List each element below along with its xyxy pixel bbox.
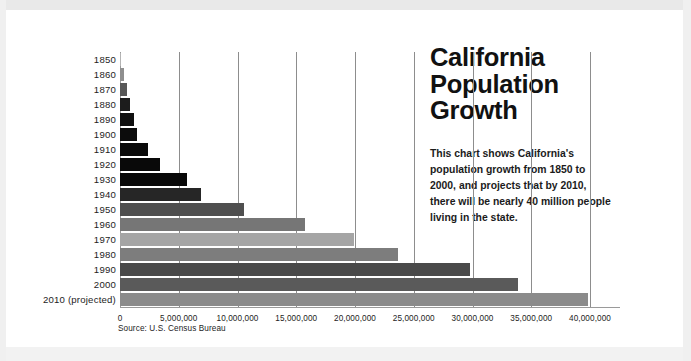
- bar-row: [120, 232, 590, 247]
- bar-1960: [120, 218, 305, 230]
- bar-1990: [120, 263, 470, 275]
- poster-top-edge: [0, 0, 691, 10]
- bar-1980: [120, 248, 398, 260]
- bar-row: [120, 112, 590, 127]
- bar-row: [120, 97, 590, 112]
- bar-row: [120, 67, 590, 82]
- bar-row: [120, 172, 590, 187]
- y-axis-label-1910: 1910: [4, 144, 116, 155]
- bar-row: [120, 292, 590, 307]
- x-axis-rule: [120, 307, 620, 308]
- bar-1920: [120, 158, 160, 170]
- bar-row: [120, 52, 590, 67]
- bar-1950: [120, 203, 244, 215]
- bar-1910: [120, 143, 148, 155]
- bar-row: [120, 142, 590, 157]
- bar-row: [120, 127, 590, 142]
- bar-chart-plot-area: 1850186018701880189019001910192019301940…: [120, 52, 590, 307]
- bar-row: [120, 262, 590, 277]
- y-axis-label-1860: 1860: [4, 69, 116, 80]
- bar-1850: [120, 53, 121, 65]
- bar-row: [120, 247, 590, 262]
- y-axis-label-1970: 1970: [4, 234, 116, 245]
- y-axis-label-1980: 1980: [4, 249, 116, 260]
- y-axis-label-1890: 1890: [4, 114, 116, 125]
- bar-1870: [120, 83, 127, 95]
- bar-1880: [120, 98, 130, 110]
- y-axis-label-1940: 1940: [4, 189, 116, 200]
- y-axis-label-1960: 1960: [4, 219, 116, 230]
- y-axis-label-1920: 1920: [4, 159, 116, 170]
- y-axis-label-1880: 1880: [4, 99, 116, 110]
- y-axis-label-1990: 1990: [4, 264, 116, 275]
- source-note: Source: U.S. Census Bureau: [118, 324, 226, 333]
- bar-1890: [120, 113, 134, 125]
- bar-row: [120, 217, 590, 232]
- gridline-40000000: [590, 52, 591, 307]
- infographic-poster: California Population Growth This chart …: [0, 0, 691, 361]
- poster-bottom-edge: [0, 347, 691, 361]
- y-axis-label-1950: 1950: [4, 204, 116, 215]
- bar-row: [120, 187, 590, 202]
- bar-1970: [120, 233, 354, 245]
- bar-1900: [120, 128, 137, 140]
- y-axis-label-1900: 1900: [4, 129, 116, 140]
- bar-row: [120, 202, 590, 217]
- x-axis-label-40000000: 40,000,000: [550, 314, 630, 323]
- bar-row: [120, 82, 590, 97]
- y-axis-label-2010-projected-: 2010 (projected): [4, 294, 116, 305]
- bar-2010-projected-: [120, 293, 588, 305]
- poster-right-edge: [683, 0, 691, 361]
- y-axis-label-1930: 1930: [4, 174, 116, 185]
- bar-1930: [120, 173, 187, 185]
- y-axis-label-1870: 1870: [4, 84, 116, 95]
- bar-row: [120, 277, 590, 292]
- bar-1940: [120, 188, 201, 200]
- y-axis-label-1850: 1850: [4, 54, 116, 65]
- y-axis-label-2000: 2000: [4, 279, 116, 290]
- bar-2000: [120, 278, 518, 290]
- bar-row: [120, 157, 590, 172]
- bar-1860: [120, 68, 124, 80]
